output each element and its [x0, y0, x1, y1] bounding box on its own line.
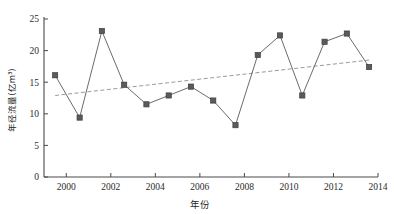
data-point-marker: 2002.6: 14.6 — [122, 82, 127, 87]
data-point-marker: 2006.6: 12.1 — [211, 98, 216, 103]
y-tick-label: 20 — [30, 46, 40, 56]
x-axis-title: 年份 — [190, 199, 210, 210]
data-point-marker: 2003.6: 11.5 — [144, 102, 149, 107]
data-point-marker: 2009.6: 22.4 — [277, 33, 282, 38]
x-tick-label: 2002 — [101, 182, 120, 192]
chart-canvas: 0510152025 20002002200420062008201020122… — [0, 0, 394, 214]
x-tick-label: 2006 — [190, 182, 209, 192]
data-point-marker: 2008.6: 19.3 — [255, 52, 260, 57]
y-tick-label: 10 — [30, 109, 40, 119]
data-point-marker: 2013.6: 17.4 — [366, 64, 371, 69]
data-point-marker: 1999.5: 16.1 — [53, 73, 58, 78]
data-point-marker: 2012.6: 22.7 — [344, 31, 349, 36]
x-tick-label: 2000 — [57, 182, 76, 192]
data-point-marker: 2000.6: 9.4 — [77, 115, 82, 120]
runoff-line-chart: 0510152025 20002002200420062008201020122… — [0, 0, 394, 214]
data-point-marker: 2010.6: 12.9 — [300, 93, 305, 98]
y-tick-label: 25 — [30, 14, 40, 24]
x-tick-label: 2014 — [369, 182, 388, 192]
y-axis-title: 年径流量(亿m³) — [7, 68, 17, 131]
x-tick-label: 2010 — [279, 182, 298, 192]
x-tick-label: 2012 — [324, 182, 343, 192]
x-tick-label: 2004 — [146, 182, 165, 192]
data-point-marker: 2005.6: 14.3 — [188, 84, 193, 89]
y-tick-label: 15 — [30, 78, 40, 88]
x-tick-label: 2008 — [235, 182, 254, 192]
data-point-marker: 2001.6: 23.1 — [99, 28, 104, 33]
y-tick-label: 0 — [34, 172, 39, 182]
data-point-marker: 2007.6: 8.2 — [233, 123, 238, 128]
data-point-marker: 2011.6: 21.4 — [322, 39, 327, 44]
y-tick-label: 5 — [34, 141, 39, 151]
data-point-marker: 2004.6: 12.9 — [166, 93, 171, 98]
